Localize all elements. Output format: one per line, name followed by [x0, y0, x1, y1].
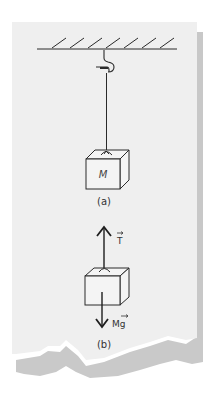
tension-label: T: [116, 236, 123, 246]
caption-b: (b): [97, 339, 111, 350]
card: [12, 22, 197, 360]
caption-a: (a): [97, 196, 111, 207]
mass-block-b: [85, 268, 129, 305]
weight-label: Mg: [112, 319, 125, 329]
mass-block-a: [86, 150, 129, 189]
physics-diagram: M (a) T Mg (b): [0, 0, 208, 397]
mass-label-a: M: [99, 169, 108, 180]
